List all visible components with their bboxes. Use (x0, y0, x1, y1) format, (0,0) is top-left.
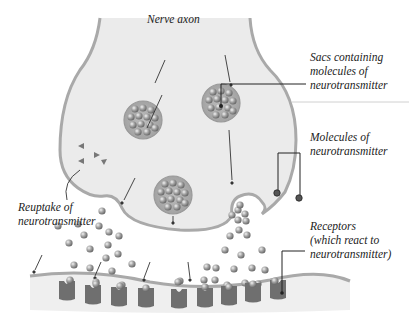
receptors-label: Receptors (which react to neurotransmitt… (310, 219, 391, 261)
vesicle-sac (154, 176, 192, 214)
sacs-label: Sacs containing molecules of neurotransm… (310, 50, 388, 92)
reuptake-label: Reuptake of neurotransmitter (18, 200, 96, 228)
nerve-axon-label: Nerve axon (147, 12, 200, 26)
molecules-label: Molecules of neurotransmitter (310, 130, 388, 158)
